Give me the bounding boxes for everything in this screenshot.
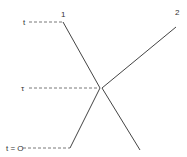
worldline-lower-right (102, 88, 140, 150)
label-2: 2 (175, 8, 180, 17)
worldline-lower-left (70, 88, 100, 148)
label-1: 1 (61, 10, 66, 19)
label-t: t (23, 18, 26, 27)
worldline-1-upper (63, 22, 100, 88)
label-t-zero: t = O (6, 144, 24, 153)
label-tau: τ (21, 84, 25, 93)
spacetime-diagram: t 1 2 τ t = O (0, 0, 187, 157)
worldline-2 (102, 27, 176, 88)
